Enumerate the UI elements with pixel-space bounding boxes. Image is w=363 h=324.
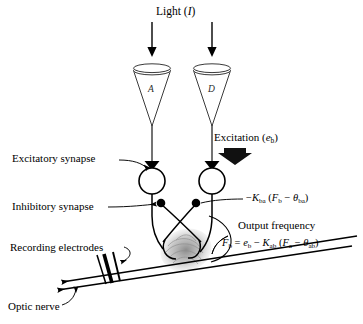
output-frequency-label: Output frequency [238, 219, 315, 232]
receptor-label-d: D [208, 84, 215, 95]
inhibitory-synapse-label: Inhibitory synapse [12, 200, 94, 213]
inhibition-equation: −Kba (Fb − θba) [246, 192, 308, 205]
light-arrow-left [147, 22, 156, 57]
inhibitory-bouton-right [192, 199, 201, 208]
output-frequency-equation: Fb = eb − Kab (Fa − θab) [222, 237, 319, 250]
excitation-block-arrow [218, 148, 252, 165]
receptor-label-a: A [148, 84, 154, 95]
optic-nerve-label: Optic nerve [8, 300, 60, 313]
figure-title: Light (I) [156, 5, 195, 18]
soma-d [199, 168, 225, 194]
excitation-label: Excitation (eb) [214, 131, 278, 145]
recording-electrodes [97, 252, 120, 284]
lateral-inhibition-diagram: Light (I) A D Excitation (eb) Excitatory… [0, 0, 363, 324]
soma-a [139, 168, 165, 194]
recording-electrodes-label: Recording electrodes [10, 241, 103, 254]
light-arrow-right [207, 22, 216, 57]
inhibitory-bouton-left [157, 199, 166, 208]
photoreceptor-cone-a [134, 64, 171, 168]
excitatory-synapse-label: Excitatory synapse [12, 152, 95, 165]
